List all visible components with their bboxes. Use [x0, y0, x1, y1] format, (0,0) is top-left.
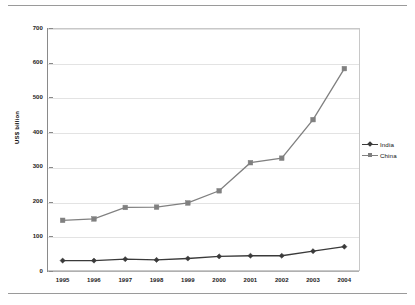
- plot-area: [47, 28, 360, 271]
- y-tick-label: 600: [9, 59, 43, 66]
- legend-item-china[interactable]: China: [362, 150, 414, 161]
- y-tick-mark: [49, 63, 53, 64]
- gridline: [48, 168, 359, 169]
- y-tick-label: 200: [9, 198, 43, 205]
- y-tick-mark: [49, 167, 53, 168]
- legend-label-india: India: [380, 141, 394, 148]
- y-tick-label: 100: [9, 233, 43, 240]
- y-axis-title: US$ billion: [14, 84, 20, 144]
- y-tick-mark: [49, 236, 53, 237]
- y-tick-label: 0: [9, 268, 43, 275]
- chart-legend: India China: [362, 139, 414, 161]
- legend-item-india[interactable]: India: [362, 139, 414, 150]
- gridline: [48, 133, 359, 134]
- gridline: [48, 29, 359, 30]
- y-axis-line: [47, 28, 48, 272]
- y-tick-label: 700: [9, 25, 43, 32]
- plot-wrapper: 0100200300400500600700 19951996199719981…: [0, 0, 415, 305]
- gridline: [48, 98, 359, 99]
- legend-label-china: China: [380, 152, 397, 159]
- y-tick-mark: [49, 132, 53, 133]
- chart-figure: 0100200300400500600700 19951996199719981…: [0, 0, 415, 305]
- y-tick-mark: [49, 97, 53, 98]
- y-tick-mark: [49, 202, 53, 203]
- x-axis-tick-labels: 1995199619971998199920002001200220032004: [0, 276, 415, 288]
- gridline: [48, 64, 359, 65]
- x-axis-line: [48, 271, 359, 272]
- legend-swatch-china: [362, 151, 378, 160]
- y-axis-tick-labels: 0100200300400500600700: [6, 0, 43, 305]
- y-tick-mark: [49, 28, 53, 29]
- y-tick-label: 300: [9, 163, 43, 170]
- legend-swatch-india: [362, 140, 378, 149]
- gridline: [48, 203, 359, 204]
- x-tick-label: 2004: [324, 276, 364, 284]
- y-tick-mark: [49, 271, 53, 272]
- gridline: [48, 237, 359, 238]
